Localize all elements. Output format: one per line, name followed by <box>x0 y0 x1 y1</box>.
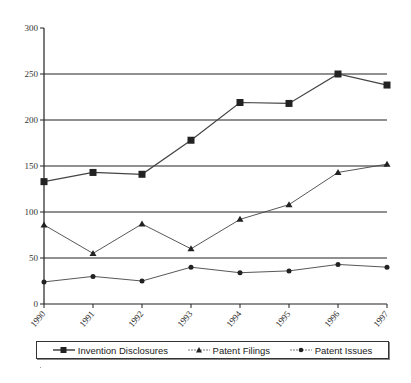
data-series <box>41 71 391 285</box>
data-point <box>41 178 48 185</box>
data-point <box>336 262 341 267</box>
line-chart: 050100150200250300 199019911992199319941… <box>0 0 411 340</box>
data-point <box>335 71 342 78</box>
data-point <box>287 268 292 273</box>
stray-mark <box>40 367 41 368</box>
legend-item-invention-disclosures: Invention Disclosures <box>53 345 168 356</box>
data-point <box>384 161 391 167</box>
y-tick-label: 50 <box>29 253 39 263</box>
data-point <box>140 279 145 284</box>
x-tick-label: 1993 <box>175 308 195 329</box>
x-tick-label: 1995 <box>273 308 293 329</box>
legend-label: Patent Filings <box>213 345 271 356</box>
data-point <box>41 221 48 227</box>
legend-label: Invention Disclosures <box>78 345 168 356</box>
x-tick-label: 1996 <box>322 308 342 329</box>
data-point <box>189 265 194 270</box>
x-tick-label: 1994 <box>224 308 244 329</box>
series-patent-issues <box>42 262 390 284</box>
legend: Invention Disclosures Patent Filings Pat… <box>36 341 389 359</box>
x-tick-label: 1991 <box>77 309 96 329</box>
y-axis-ticks: 050100150200250300 <box>25 23 45 309</box>
y-tick-label: 0 <box>34 299 39 309</box>
data-point <box>139 171 146 178</box>
data-point <box>286 201 293 207</box>
data-point <box>42 279 47 284</box>
data-point <box>237 99 244 106</box>
data-point <box>90 169 97 176</box>
data-point <box>384 82 391 89</box>
x-tick-label: 1992 <box>126 309 145 329</box>
x-axis-ticks: 19901991199219931994199519961997 <box>28 304 391 329</box>
gridlines <box>44 74 387 258</box>
legend-item-patent-issues: Patent Issues <box>290 345 373 356</box>
data-point <box>91 274 96 279</box>
circle-marker-icon <box>290 346 312 354</box>
y-tick-label: 150 <box>25 161 39 171</box>
data-point <box>139 220 146 226</box>
data-point <box>188 245 195 251</box>
y-tick-label: 200 <box>25 115 39 125</box>
legend-label: Patent Issues <box>315 345 373 356</box>
series-invention-disclosures <box>41 71 391 186</box>
y-tick-label: 100 <box>25 207 39 217</box>
x-tick-label: 1990 <box>28 308 48 329</box>
data-point <box>238 270 243 275</box>
data-point <box>286 100 293 107</box>
square-marker-icon <box>53 346 75 354</box>
triangle-marker-icon <box>188 346 210 354</box>
x-tick-label: 1997 <box>371 308 391 329</box>
data-point <box>188 137 195 144</box>
y-tick-label: 250 <box>25 69 39 79</box>
data-point <box>385 265 390 270</box>
y-tick-label: 300 <box>25 23 39 33</box>
data-point <box>90 250 97 256</box>
legend-item-patent-filings: Patent Filings <box>188 345 271 356</box>
